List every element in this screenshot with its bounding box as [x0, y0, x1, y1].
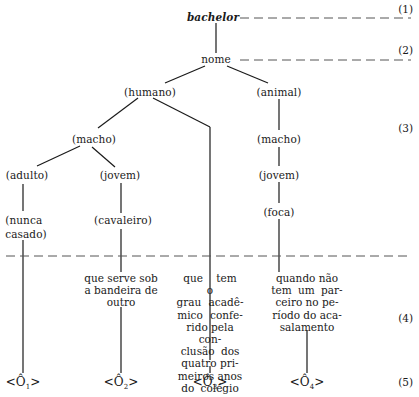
distinguisher-2-line: rido pela con-: [174, 321, 246, 345]
level-label-2: (2): [398, 44, 413, 56]
semantic-marker-animal: (animal): [257, 86, 302, 98]
semantic-marker-humano: (humano): [124, 86, 176, 98]
restriction-base: <Ô: [104, 375, 124, 389]
restriction-base: <Ô: [6, 375, 26, 389]
selection-restriction-3: <Ô3>: [193, 375, 227, 391]
distinguisher-1-line: a bandeira de: [81, 284, 161, 296]
distinguisher-1-line: que serve sob: [81, 272, 161, 284]
semantic-marker-foca: (foca): [263, 206, 294, 218]
distinguisher-2-line: que tem o: [174, 272, 246, 296]
distinguisher-2-line: quatro pri-: [174, 357, 246, 369]
level-label-3: (3): [398, 122, 413, 134]
level-label-5: (5): [398, 376, 413, 388]
nunca-casado-line-2: casado): [5, 228, 47, 240]
restriction-close: >: [217, 375, 227, 389]
restriction-close: >: [314, 375, 324, 389]
level-label-1: (1): [398, 3, 413, 15]
distinguisher-1-line: outro: [81, 296, 161, 308]
distinguisher-3-line: ríodo do aca-: [271, 309, 343, 321]
distinguisher-3-line: salamento: [271, 321, 343, 333]
distinguisher-3-line: ceiro no pe-: [271, 296, 343, 308]
selection-restriction-1: <Ô1>: [6, 375, 40, 391]
distinguisher-3: quando não tem um par- ceiro no pe- ríod…: [271, 272, 343, 333]
semantic-marker-jovem-right: (jovem): [259, 169, 300, 181]
selection-restriction-4: <Ô4>: [290, 375, 324, 391]
restriction-base: <Ô: [193, 375, 213, 389]
selection-restriction-2: <Ô2>: [104, 375, 138, 391]
restriction-base: <Ô: [290, 375, 310, 389]
semantic-marker-adulto: (adulto): [6, 169, 49, 181]
root-lexical-item: bachelor: [187, 11, 239, 23]
semantic-marker-nunca-casado: (nunca casado): [5, 214, 47, 240]
distinguisher-3-line: quando não: [271, 272, 343, 284]
restriction-close: >: [128, 375, 138, 389]
grammatical-marker-nome: nome: [201, 53, 231, 65]
semantic-marker-macho-left: (macho): [72, 133, 116, 145]
semantic-marker-cavaleiro: (cavaleiro): [94, 214, 152, 226]
restriction-close: >: [30, 375, 40, 389]
distinguisher-3-line: tem um par-: [271, 284, 343, 296]
semantic-marker-jovem-left: (jovem): [100, 169, 141, 181]
nunca-casado-line-1: (nunca: [5, 214, 47, 226]
distinguisher-1: que serve sob a bandeira de outro: [81, 272, 161, 309]
level-label-4: (4): [398, 312, 413, 324]
semantic-marker-macho-right: (macho): [257, 133, 301, 145]
distinguisher-2-line: mico confe-: [174, 309, 246, 321]
distinguisher-2-line: clusão dos: [174, 345, 246, 357]
distinguisher-2-line: grau acadê-: [174, 296, 246, 308]
